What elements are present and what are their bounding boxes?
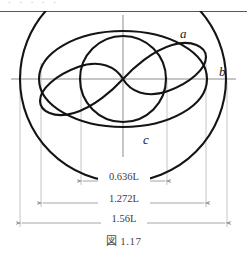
curve-label-c: c [143,132,149,147]
clipped-header-text: · · · · · [8,0,168,9]
figure-page: · · · · · [0,0,247,257]
dimension-inner: 0.636L [83,170,165,183]
curve-label-b: b [219,64,226,79]
dimension-middle-label: 1.272L [109,193,139,204]
dimension-group: 0.636L 1.272L 1.56L [22,170,225,225]
dimension-middle: 1.272L [43,192,204,205]
curve-label-a: a [180,26,187,41]
dimension-outer: 1.56L [22,212,225,225]
dimension-inner-label: 0.636L [109,171,139,182]
figure-caption: 図 1.17 [0,232,247,248]
dimension-outer-label: 1.56L [112,213,137,224]
geometric-figure: a b c 0.636L 1.272L 1.56L [0,11,247,232]
